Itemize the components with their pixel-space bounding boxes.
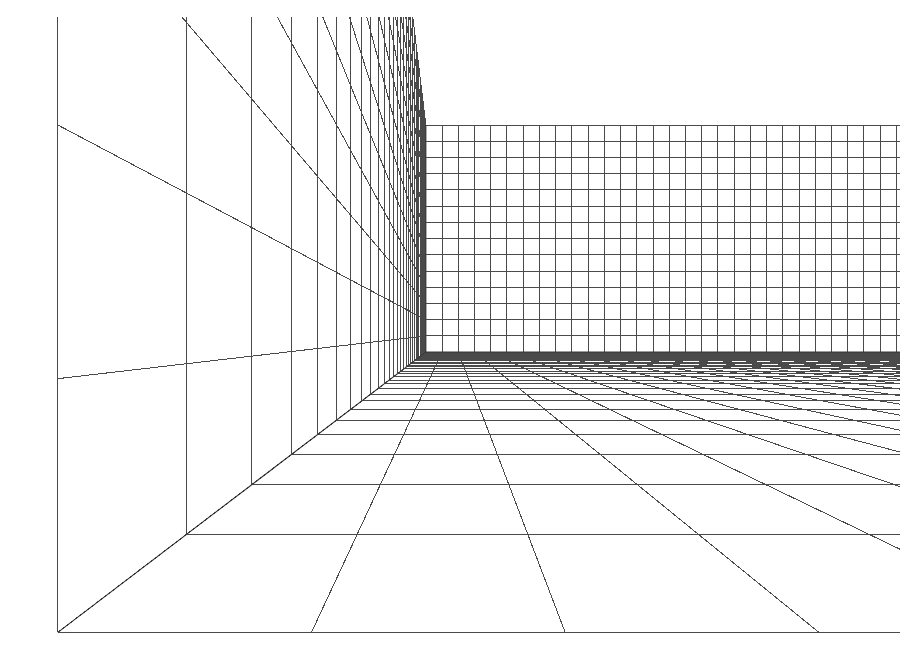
wireframe-room-diagram: [0, 0, 902, 667]
perspective-grid-canvas: [0, 0, 902, 667]
